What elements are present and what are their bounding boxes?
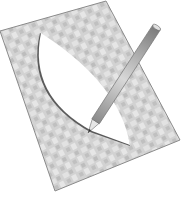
illustration: Pencil tracing a lens shape on a pattern… (0, 0, 187, 201)
